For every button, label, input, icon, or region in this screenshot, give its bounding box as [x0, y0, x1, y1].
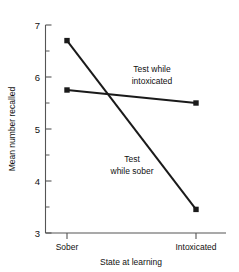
y-tick-label-7: 7 — [35, 20, 40, 31]
annotation-test-while-intoxicated-line2: intoxicated — [132, 76, 173, 86]
y-tick-label-5: 5 — [35, 124, 40, 135]
series-marker-test-while-sober-sober — [64, 38, 69, 43]
series-line-test-while-sober — [67, 41, 196, 210]
y-tick-label-6: 6 — [35, 72, 40, 83]
series-marker-test-while-intoxicated-sober — [64, 87, 69, 92]
y-tick-label-3: 3 — [35, 228, 40, 239]
annotation-test-while-intoxicated-line1: Test while — [133, 64, 171, 74]
annotation-test-while-sober-line2: while sober — [110, 166, 154, 176]
series-marker-test-while-sober-intoxicated — [193, 207, 198, 212]
chart-figure: 7 6 5 4 3 Sober Intoxicated State at lea… — [0, 0, 239, 272]
annotation-test-while-sober-line1: Test — [124, 154, 140, 164]
series-marker-test-while-intoxicated-intoxicated — [193, 100, 198, 105]
x-category-label-sober: Sober — [56, 242, 79, 252]
x-axis-title: State at learning — [100, 257, 162, 267]
line-chart-svg: 7 6 5 4 3 Sober Intoxicated State at lea… — [0, 0, 239, 272]
y-axis-title: Mean number recalled — [7, 86, 17, 171]
x-category-label-intoxicated: Intoxicated — [175, 242, 216, 252]
series-line-test-while-intoxicated — [67, 90, 196, 103]
y-tick-label-4: 4 — [35, 176, 40, 187]
